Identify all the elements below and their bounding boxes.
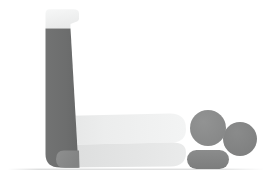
illustration-canvas: Minimal grayscale illustration of an L-s… — [0, 0, 273, 179]
illustration-svg — [0, 0, 273, 179]
column-top-flare — [46, 9, 80, 28]
horizontal-arm-upper — [60, 114, 186, 146]
capsule — [187, 150, 229, 169]
base-foot — [56, 151, 80, 168]
vertical-column — [46, 29, 79, 168]
circle-right — [223, 122, 257, 156]
circle-left — [190, 110, 226, 146]
ground-line — [8, 169, 264, 170]
